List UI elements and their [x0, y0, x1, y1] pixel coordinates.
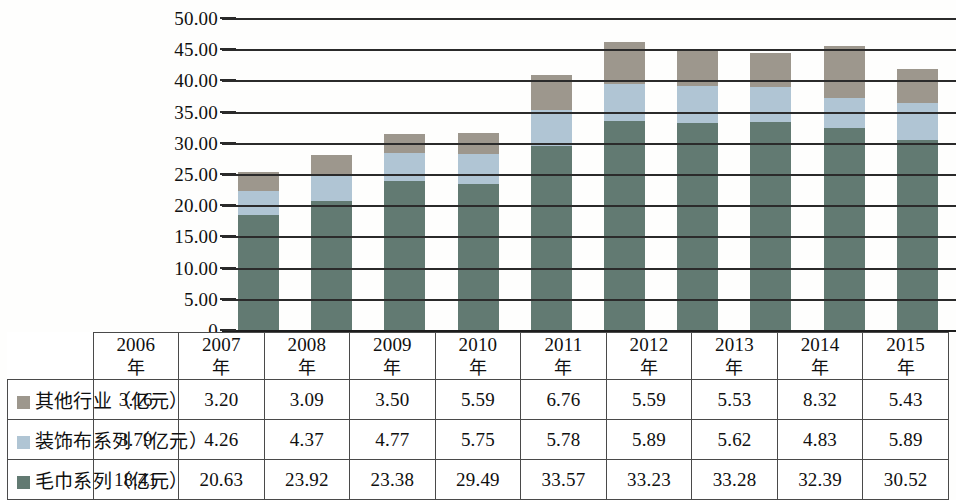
bar-segment-decor [750, 87, 791, 122]
bar-segment-towel [384, 181, 425, 330]
bar-segment-other [897, 69, 938, 103]
y-axis-tick-mark [220, 235, 236, 237]
y-axis-tick-label: 15.00 [174, 227, 218, 246]
bar-column [897, 69, 938, 330]
table-data-cell: 4.77 [350, 420, 436, 460]
y-axis-tick-label: 50.00 [174, 9, 218, 28]
table-data-cell: 5.59 [435, 380, 521, 420]
table-data-cell: 4.83 [777, 420, 863, 460]
table-year-header: 2011年 [521, 333, 607, 380]
bar-segment-decor [238, 191, 279, 215]
legend-swatch-other [17, 396, 30, 409]
bar-column [604, 42, 645, 330]
table-year-header: 2014年 [777, 333, 863, 380]
series-legend-label: 毛巾系列（亿元） [8, 460, 94, 500]
series-name: 毛巾系列（亿元） [35, 470, 189, 492]
bar-segment-decor [458, 154, 499, 184]
table-data-cell: 32.39 [777, 460, 863, 500]
bar-segment-towel [897, 140, 938, 330]
gridline [222, 112, 956, 114]
gridline [222, 236, 956, 238]
table-data-cell: 5.62 [692, 420, 778, 460]
table-data-cell: 5.59 [606, 380, 692, 420]
gridline [222, 49, 956, 51]
table-row: 毛巾系列（亿元）18.4120.6323.9223.3829.4933.5733… [8, 460, 949, 500]
bar-column [311, 155, 352, 330]
legend-swatch-decor [17, 436, 30, 449]
plot-area [222, 0, 956, 334]
bar-segment-decor [897, 103, 938, 140]
table-data-cell: 5.89 [606, 420, 692, 460]
table-data-cell: 5.53 [692, 380, 778, 420]
year-suffix: 年 [94, 356, 179, 379]
year-number: 2010 [436, 333, 521, 356]
year-number: 2012 [607, 333, 692, 356]
y-axis-tick-mark [220, 17, 236, 19]
y-axis-tick-mark [220, 48, 236, 50]
bar-segment-decor [531, 110, 572, 146]
gridline [222, 205, 956, 207]
year-number: 2008 [265, 333, 350, 356]
bar-segment-towel [311, 201, 352, 330]
year-number: 2015 [863, 333, 948, 356]
y-axis-tick-mark [220, 329, 236, 331]
year-suffix: 年 [521, 356, 606, 379]
bar-segment-other [824, 46, 865, 98]
table-row: 其他行业（亿元）3.163.203.093.505.596.765.595.53… [8, 380, 949, 420]
year-number: 2011 [521, 333, 606, 356]
y-axis-tick-mark [220, 298, 236, 300]
y-axis-tick-label: 5.00 [184, 289, 218, 308]
table-data-cell: 23.38 [350, 460, 436, 500]
gridline [222, 268, 956, 270]
y-axis-tick-label: 45.00 [174, 40, 218, 59]
y-axis-tick-label: 10.00 [174, 258, 218, 277]
bar-segment-decor [604, 84, 645, 120]
table-corner-cell [8, 333, 94, 380]
y-axis-tick-mark [220, 79, 236, 81]
table-data-cell: 5.78 [521, 420, 607, 460]
table-data-cell: 6.76 [521, 380, 607, 420]
table-year-header: 2012年 [606, 333, 692, 380]
y-axis-tick-mark [220, 204, 236, 206]
bar-column [677, 51, 718, 330]
year-number: 2014 [778, 333, 863, 356]
table-data-cell: 5.89 [863, 420, 949, 460]
y-axis-tick-mark [220, 111, 236, 113]
year-suffix: 年 [265, 356, 350, 379]
bar-column [238, 172, 279, 330]
table-data-cell: 23.92 [264, 460, 350, 500]
table-year-header: 2015年 [863, 333, 949, 380]
year-number: 2007 [179, 333, 264, 356]
table-year-header: 2013年 [692, 333, 778, 380]
year-number: 2006 [94, 333, 179, 356]
y-axis-tick-label: 30.00 [174, 133, 218, 152]
bar-segment-other [311, 155, 352, 175]
y-axis-labels: 05.0010.0015.0020.0025.0030.0035.0040.00… [150, 0, 218, 334]
table-data-cell: 33.28 [692, 460, 778, 500]
y-axis-tick-mark [220, 173, 236, 175]
gridline [222, 80, 956, 82]
series-legend-label: 其他行业（亿元） [8, 380, 94, 420]
table-data-cell: 3.50 [350, 380, 436, 420]
year-suffix: 年 [350, 356, 435, 379]
gridline [222, 18, 956, 20]
gridline [222, 143, 956, 145]
table-data-cell: 30.52 [863, 460, 949, 500]
bar-segment-towel [238, 215, 279, 330]
table-year-header: 2010年 [435, 333, 521, 380]
y-axis-tick-label: 20.00 [174, 196, 218, 215]
table-year-header: 2009年 [350, 333, 436, 380]
bar-column [750, 53, 791, 330]
table-data-cell: 5.75 [435, 420, 521, 460]
bar-segment-decor [311, 175, 352, 202]
series-name: 其他行业（亿元） [35, 390, 189, 412]
year-suffix: 年 [778, 356, 863, 379]
table-data-cell: 4.37 [264, 420, 350, 460]
year-suffix: 年 [863, 356, 948, 379]
data-table: 2006年2007年2008年2009年2010年2011年2012年2013年… [7, 332, 949, 500]
gridline [222, 299, 956, 301]
data-table-body: 2006年2007年2008年2009年2010年2011年2012年2013年… [8, 333, 949, 500]
table-row: 装饰布系列（亿元）3.794.264.374.775.755.785.895.6… [8, 420, 949, 460]
y-axis-tick-mark [220, 142, 236, 144]
table-year-header: 2006年 [93, 333, 179, 380]
